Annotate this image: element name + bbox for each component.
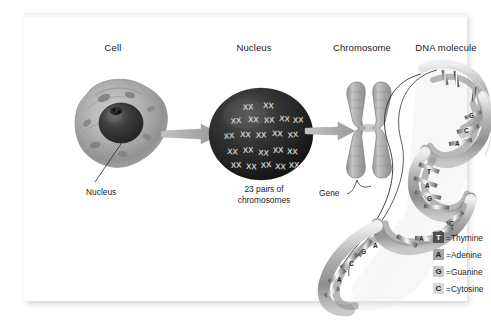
legend-tile-guanine: G: [433, 266, 444, 277]
svg-text:XX: XX: [275, 162, 287, 172]
svg-text:T: T: [427, 168, 431, 175]
svg-text:XX: XX: [231, 160, 243, 170]
legend-label-thymine: =Thymine: [446, 233, 483, 243]
svg-text:XX: XX: [243, 145, 255, 155]
header-chromosome: Chromosome: [323, 42, 401, 53]
svg-text:XX: XX: [279, 114, 291, 124]
svg-text:XX: XX: [248, 115, 260, 124]
svg-text:G: G: [361, 248, 366, 255]
svg-text:XX: XX: [243, 102, 255, 112]
svg-text:XX: XX: [227, 147, 239, 157]
legend-row-guanine: G =Guanine: [433, 263, 491, 280]
svg-text:A: A: [425, 182, 430, 189]
header-cell: Cell: [73, 42, 153, 53]
figure-content: Cell Nucleus Chromosome DNA molecule: [29, 18, 462, 296]
legend-label-adenine: =Adenine: [446, 250, 482, 260]
legend-tile-adenine: A: [433, 249, 444, 260]
svg-text:A: A: [337, 276, 342, 283]
base-pair-legend: T =Thymine A =Adenine G =Guanine C =Cyto…: [433, 229, 491, 297]
figure-canvas: Cell Nucleus Chromosome DNA molecule: [0, 0, 491, 322]
svg-text:C: C: [349, 260, 354, 267]
nucleus-callout-label: Nucleus: [86, 187, 116, 197]
svg-text:G: G: [427, 195, 432, 202]
nucleus-leader-line: [89, 136, 141, 186]
legend-row-adenine: A =Adenine: [433, 246, 491, 263]
header-nucleus: Nucleus: [209, 42, 299, 53]
svg-text:XX: XX: [256, 130, 268, 140]
svg-text:XX: XX: [260, 160, 272, 170]
svg-text:XX: XX: [258, 148, 270, 158]
svg-text:XX: XX: [223, 131, 235, 141]
svg-text:XX: XX: [263, 101, 275, 111]
svg-text:A: A: [373, 242, 378, 249]
legend-row-thymine: T =Thymine: [433, 229, 491, 246]
svg-text:XX: XX: [246, 162, 258, 171]
svg-text:XX: XX: [272, 129, 284, 138]
legend-row-cytosine: C =Cytosine: [433, 280, 491, 297]
svg-text:XX: XX: [264, 115, 276, 125]
svg-text:XX: XX: [240, 130, 252, 140]
legend-tile-cytosine: C: [433, 283, 444, 294]
svg-text:G: G: [469, 112, 474, 119]
svg-text:A: A: [419, 235, 424, 242]
svg-text:A: A: [455, 140, 460, 147]
figure-card: Cell Nucleus Chromosome DNA molecule: [24, 13, 467, 301]
svg-text:C: C: [464, 127, 469, 134]
svg-text:XX: XX: [273, 146, 285, 155]
svg-text:C: C: [449, 220, 454, 227]
legend-label-guanine: =Guanine: [446, 267, 483, 277]
header-dna-molecule: DNA molecule: [407, 42, 485, 53]
svg-text:XX: XX: [230, 116, 242, 126]
legend-label-cytosine: =Cytosine: [446, 284, 483, 294]
legend-tile-thymine: T: [433, 232, 444, 243]
